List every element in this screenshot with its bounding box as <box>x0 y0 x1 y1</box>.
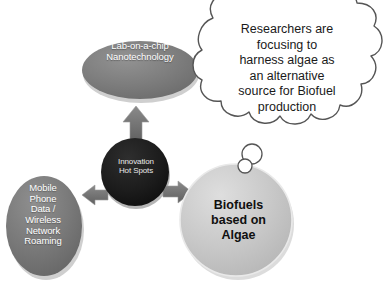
arrow-left-to-mobile-phone <box>82 185 108 205</box>
node-innovation-hot-spots[interactable] <box>101 138 169 206</box>
diagram-canvas: Lab-on-a-chip Nanotechnology Innovation … <box>0 0 383 291</box>
arrow-up-to-lab-on-a-chip <box>123 106 149 143</box>
diagram-graphics <box>0 0 383 291</box>
thought-bubble-small <box>238 159 252 173</box>
node-mobile-phone[interactable] <box>6 176 82 276</box>
node-biofuels[interactable] <box>180 164 292 276</box>
thought-cloud-outline <box>193 0 382 124</box>
node-lab-on-a-chip[interactable] <box>82 41 198 99</box>
